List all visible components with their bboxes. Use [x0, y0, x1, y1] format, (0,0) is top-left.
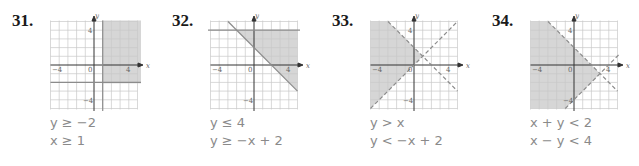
svg-text:−4: −4 — [372, 66, 383, 74]
problem-32: 32. −404−4 xy y ≤ 4 y ≥ −x + 2 — [160, 0, 320, 166]
svg-text:−4: −4 — [212, 66, 223, 74]
inequality-1: y ≤ 4 — [210, 115, 245, 130]
svg-text:y: y — [254, 14, 260, 20]
svg-text:4: 4 — [568, 27, 573, 35]
svg-text:−4: −4 — [532, 66, 543, 74]
inequality-2: y < −x + 2 — [370, 133, 443, 148]
problem-34: 34. −4044−4 xy x + y < 2 x − y < 4 — [480, 0, 639, 166]
graph-33: −4044−4 xy — [364, 14, 474, 118]
inequality-1: x + y < 2 — [530, 115, 592, 130]
svg-text:0: 0 — [568, 66, 572, 74]
svg-text:y: y — [414, 14, 420, 20]
problem-33: 33. −4044−4 xy y > x y < −x + 2 — [320, 0, 480, 166]
inequality-1: y > x — [370, 115, 405, 130]
coordinate-plane: −4044−4 xy — [524, 14, 634, 118]
svg-text:y: y — [574, 14, 580, 20]
svg-text:4: 4 — [408, 27, 413, 35]
svg-text:−4: −4 — [83, 97, 94, 105]
graph-31: −4044−4 xy — [44, 14, 154, 118]
problem-number: 31. — [12, 11, 33, 31]
svg-text:−4: −4 — [563, 97, 574, 105]
svg-text:4: 4 — [126, 66, 131, 74]
svg-text:0: 0 — [88, 66, 92, 74]
svg-text:0: 0 — [408, 66, 412, 74]
svg-text:x: x — [146, 62, 150, 70]
inequality-1: y ≥ −2 — [50, 115, 96, 130]
graph-34: −4044−4 xy — [524, 14, 634, 118]
svg-text:−4: −4 — [243, 97, 254, 105]
svg-text:y: y — [94, 14, 100, 20]
graph-32: −404−4 xy — [204, 14, 314, 118]
inequality-2: y ≥ −x + 2 — [210, 133, 283, 148]
problem-31: 31. −4044−4 xy y ≥ −2 x ≥ 1 — [0, 0, 160, 166]
coordinate-plane: −404−4 xy — [204, 14, 314, 118]
inequality-2: x ≥ 1 — [50, 133, 85, 148]
svg-text:4: 4 — [446, 66, 451, 74]
coordinate-plane: −4044−4 xy — [364, 14, 474, 118]
svg-text:−4: −4 — [403, 97, 414, 105]
svg-text:x: x — [466, 62, 470, 70]
coordinate-plane: −4044−4 xy — [44, 14, 154, 118]
svg-text:0: 0 — [248, 66, 252, 74]
svg-text:x: x — [306, 62, 310, 70]
problem-number: 33. — [332, 11, 353, 31]
inequality-2: x − y < 4 — [530, 133, 592, 148]
problem-number: 34. — [492, 11, 513, 31]
svg-text:4: 4 — [286, 66, 291, 74]
svg-text:x: x — [626, 62, 630, 70]
problem-number: 32. — [172, 11, 193, 31]
svg-text:4: 4 — [606, 66, 611, 74]
svg-text:4: 4 — [88, 27, 93, 35]
svg-text:−4: −4 — [52, 66, 63, 74]
